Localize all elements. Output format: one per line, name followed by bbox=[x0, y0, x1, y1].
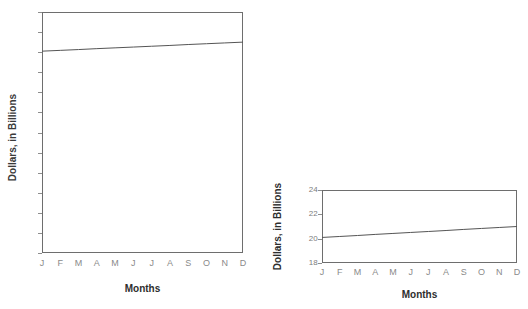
x-axis-title: Months bbox=[322, 289, 517, 300]
two-chart-figure: Dollars, in Billions 2422201816141210864… bbox=[0, 0, 528, 309]
truncated-scale-chart: Dollars, in Billions 24222018 JFMAMJJASO… bbox=[264, 0, 528, 309]
data-line-layer bbox=[264, 0, 528, 309]
series-line-dollars bbox=[322, 227, 517, 238]
full-scale-chart: Dollars, in Billions 2422201816141210864… bbox=[0, 0, 264, 309]
data-line-layer bbox=[0, 0, 264, 309]
x-axis-title: Months bbox=[42, 283, 243, 294]
series-line-dollars bbox=[42, 42, 243, 51]
